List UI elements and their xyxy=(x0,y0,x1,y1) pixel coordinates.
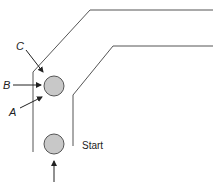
label-a: A xyxy=(8,106,16,118)
arrow-c xyxy=(26,50,43,72)
ball-upper xyxy=(44,76,64,96)
label-start: Start xyxy=(82,140,103,151)
inner-wall xyxy=(73,46,213,146)
label-b: B xyxy=(3,79,10,91)
arrow-a xyxy=(20,97,42,108)
ball-start xyxy=(44,134,64,154)
track-diagram: C B A Start xyxy=(0,0,213,184)
label-c: C xyxy=(16,40,24,52)
